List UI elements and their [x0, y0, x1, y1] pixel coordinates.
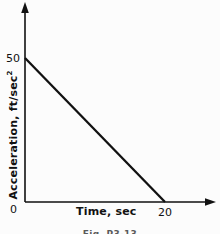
data-series-acceleration: [25, 58, 165, 202]
y-axis-label: Acceleration, ft/sec2: [7, 70, 20, 199]
origin-tick-label: 0: [10, 203, 17, 216]
chart-canvas: [0, 0, 220, 234]
x-axis-arrowhead-icon: [205, 198, 216, 206]
figure-container: Acceleration, ft/sec2 Time, sec 50 0 20 …: [0, 0, 220, 234]
figure-caption: Fig. P3-13: [0, 229, 220, 234]
y-axis-arrowhead-icon: [21, 2, 29, 13]
x-axis-label: Time, sec: [76, 205, 137, 218]
x-axis-tick-label-20: 20: [158, 206, 172, 219]
y-axis-label-text: Acceleration, ft/sec: [7, 75, 20, 199]
y-axis-label-exponent: 2: [6, 70, 14, 75]
y-axis-tick-label-50: 50: [6, 52, 20, 65]
